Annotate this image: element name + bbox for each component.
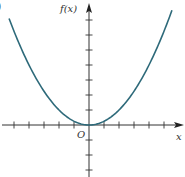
origin-label: O [77, 129, 85, 140]
parabola-chart: f(x) x O [0, 0, 185, 177]
y-axis-label: f(x) [59, 3, 77, 14]
parabola-curve [9, 10, 172, 125]
x-axis-label: x [176, 131, 182, 142]
